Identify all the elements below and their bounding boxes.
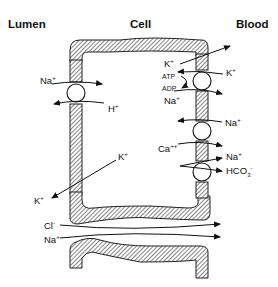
adp-label: ADP	[162, 85, 177, 92]
cl-label: Cl-	[44, 220, 55, 231]
lumen-header: Lumen	[8, 18, 46, 30]
hco3-label: HCO3-	[226, 165, 252, 178]
k-label-top: K+	[164, 58, 174, 69]
blood-header: Blood	[236, 18, 269, 30]
cell-header: Cell	[130, 18, 151, 30]
na-hco3-cotransporter: Na+ HCO3-	[180, 151, 252, 181]
epithelial-transport-diagram: Lumen Cell Blood Na+ H+ K+ K+	[0, 0, 278, 287]
h-label: H+	[108, 103, 119, 114]
k-label-cell: K+	[118, 151, 128, 162]
na-label-apical: Na+	[40, 75, 56, 86]
k-label-lumen: K+	[34, 195, 44, 206]
na-label-cotransporter: Na+	[226, 151, 242, 162]
na-label-pump: Na+	[164, 95, 180, 106]
ca-label: Ca++	[158, 143, 178, 154]
na-label-exchanger: Na+	[225, 117, 241, 128]
paracellular-pathway: Cl- Na+	[44, 220, 220, 245]
k-label-pump: K+	[226, 67, 236, 78]
lower-cell-membrane	[70, 238, 208, 278]
na-label-paracellular: Na+	[44, 234, 60, 245]
atp-label: ATP	[162, 73, 175, 80]
upper-cell-membrane	[70, 38, 210, 224]
